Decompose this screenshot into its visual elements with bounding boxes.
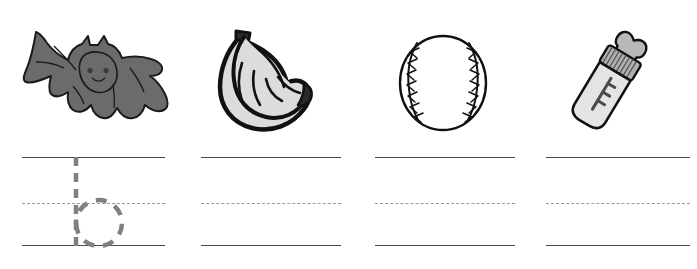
rule-top-line-3 bbox=[375, 157, 515, 158]
rule-bottom-line-4 bbox=[546, 245, 690, 246]
rule-bottom-line-2 bbox=[201, 245, 341, 246]
rule-bottom-line-3 bbox=[375, 245, 515, 246]
worksheet-column-4 bbox=[536, 0, 697, 269]
bananas-icon bbox=[214, 27, 316, 135]
rule-dotted-midline-3 bbox=[375, 203, 515, 204]
worksheet-column-1 bbox=[0, 0, 180, 269]
rule-bottom-line-1 bbox=[22, 245, 165, 246]
rule-top-line-1 bbox=[22, 157, 165, 158]
rule-top-line-4 bbox=[546, 157, 690, 158]
worksheet-column-3 bbox=[365, 0, 525, 269]
worksheet-column-2 bbox=[190, 0, 350, 269]
bat-icon bbox=[18, 28, 170, 132]
rule-dotted-midline-2 bbox=[201, 203, 341, 204]
rule-dotted-midline-1 bbox=[22, 203, 165, 204]
baby-bottle-icon bbox=[558, 26, 662, 134]
worksheet-page bbox=[0, 0, 697, 269]
rule-top-line-2 bbox=[201, 157, 341, 158]
baseball-icon bbox=[397, 33, 489, 133]
rule-dotted-midline-4 bbox=[546, 203, 690, 204]
